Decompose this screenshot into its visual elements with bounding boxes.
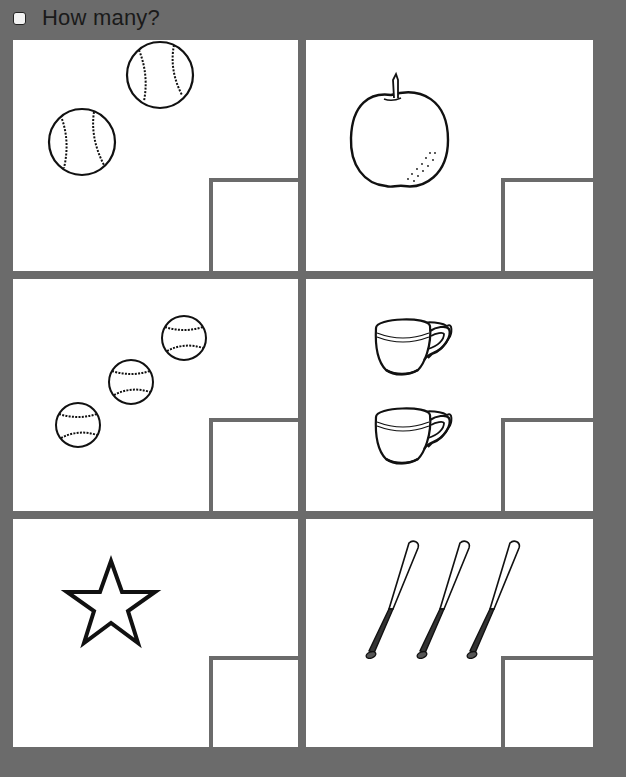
task-checkbox[interactable] — [13, 12, 26, 25]
answer-box[interactable] — [209, 418, 298, 511]
panel-bats-3: 3 — [306, 519, 593, 747]
panel-cups-2: 2 — [306, 279, 593, 511]
panel-baseballs-2: 2 — [13, 40, 298, 271]
panel-apple-1: 1 — [306, 40, 593, 271]
baseball-icon — [162, 316, 206, 360]
baseball-icon — [127, 42, 193, 108]
teacup-icon — [376, 408, 452, 463]
teacup-icon — [376, 319, 452, 374]
baseball-icon — [56, 403, 100, 447]
page-title: How many? — [42, 5, 160, 31]
answer-box[interactable] — [209, 178, 298, 271]
answer-box[interactable] — [501, 418, 593, 511]
baseball-icon — [49, 109, 115, 175]
answer-box[interactable] — [209, 656, 298, 747]
answer-box[interactable] — [501, 656, 593, 747]
baseball-bat-icon — [365, 541, 418, 659]
answer-box[interactable] — [501, 178, 593, 271]
worksheet-header: How many? — [13, 4, 160, 32]
panel-baseballs-3: 3 — [13, 279, 298, 511]
baseball-bat-icon — [466, 541, 519, 659]
baseball-icon — [109, 360, 153, 404]
baseball-bat-icon — [416, 541, 469, 659]
panel-star-1: 1 — [13, 519, 298, 747]
